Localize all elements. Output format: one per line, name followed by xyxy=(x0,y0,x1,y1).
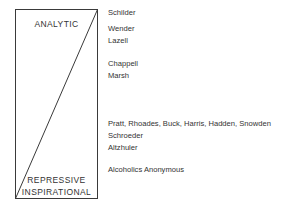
pole-label-repressive-inspirational: REPRESSIVE INSPIRATIONAL xyxy=(15,174,98,198)
entry-label: Alcoholics Anonymous xyxy=(108,165,184,175)
entry-label: Altzhuler xyxy=(108,143,138,153)
entry-label: Lazell xyxy=(108,36,128,46)
entry-label: Schilder xyxy=(108,8,135,18)
entry-label: Marsh xyxy=(108,71,129,81)
entry-label: Chappell xyxy=(108,59,138,69)
pole-label-repressive: REPRESSIVE xyxy=(15,174,98,186)
therapy-continuum-diagram: ANALYTIC REPRESSIVE INSPIRATIONAL Schild… xyxy=(0,0,296,212)
entry-label: Wender xyxy=(108,24,134,34)
pole-label-inspirational: INSPIRATIONAL xyxy=(15,186,98,198)
entry-label: Pratt, Rhoades, Buck, Harris, Hadden, Sn… xyxy=(108,119,271,129)
pole-label-analytic: ANALYTIC xyxy=(15,18,98,30)
entry-label: Schroeder xyxy=(108,131,143,141)
